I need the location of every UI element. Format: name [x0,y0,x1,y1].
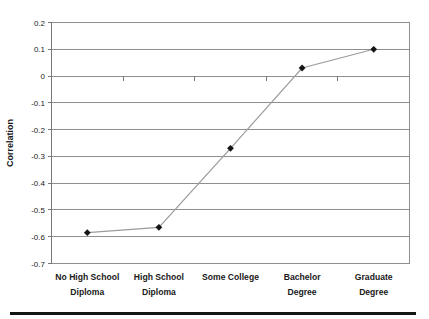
footer-rule [10,312,416,315]
y-tick-label: -0.6 [31,233,45,242]
x-category-label: Some College [202,272,259,282]
y-tick-label: -0.5 [31,206,45,215]
y-axis-title: Correlation [5,119,15,167]
y-tick-label: 0.1 [34,45,46,54]
y-tick-label: -0.4 [31,179,45,188]
x-category-label: Degree [288,287,317,297]
chart-figure: 0.20.10-0.1-0.2-0.3-0.4-0.5-0.6-0.7No Hi… [0,0,429,319]
y-tick-label: 0.2 [34,19,46,28]
correlation-line-chart: 0.20.10-0.1-0.2-0.3-0.4-0.5-0.6-0.7No Hi… [0,0,429,319]
x-category-label: Diploma [70,287,104,297]
x-category-label: Diploma [142,287,176,297]
data-point-marker [370,46,377,53]
y-tick-label: -0.2 [31,126,45,135]
y-tick-label: -0.3 [31,152,45,161]
x-category-label: Bachelor [284,272,321,282]
x-category-label: No High School [55,272,119,282]
x-category-label: Graduate [355,272,393,282]
x-category-label: Degree [359,287,388,297]
y-tick-label: -0.1 [31,99,45,108]
y-tick-label: -0.7 [31,260,45,269]
data-point-marker [84,229,91,236]
x-category-label: High School [134,272,184,282]
y-tick-label: 0 [41,72,46,81]
data-line [87,49,373,232]
